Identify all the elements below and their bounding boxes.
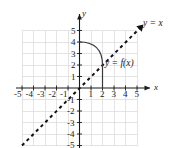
y-tick-label-3: 3 (71, 50, 76, 59)
x-tick-label-neg4: -4 (26, 90, 34, 99)
graph-figure: y x -5 -4 -3 -2 -1 1 2 3 4 5 5 4 3 2 1 -… (0, 0, 173, 148)
x-tick-label-5: 5 (135, 90, 140, 99)
y-tick-label-4: 4 (71, 38, 76, 47)
x-tick-label-neg3: -3 (37, 90, 45, 99)
x-tick-label-4: 4 (123, 90, 128, 99)
y-tick-label-2: 2 (71, 61, 76, 70)
x-tick-label-neg2: -2 (49, 90, 57, 99)
y-tick-label-5: 5 (71, 27, 76, 36)
x-tick-label-1: 1 (89, 90, 94, 99)
function-curve-label: y = f(x) (105, 59, 134, 69)
x-axis-label: x (154, 83, 158, 92)
x-tick-label-neg5: -5 (14, 90, 22, 99)
y-axis (77, 14, 82, 148)
y-tick-label-neg4: -4 (67, 130, 75, 139)
y-tick-label-neg3: -3 (67, 119, 75, 128)
y-tick-label-neg2: -2 (67, 107, 75, 116)
y-tick-label-neg1: -1 (67, 96, 75, 105)
y-axis-label: y (82, 9, 86, 18)
identity-line-label: y = x (143, 19, 163, 29)
y-tick-label-neg5: -5 (67, 141, 75, 148)
y-tick-label-1: 1 (71, 73, 76, 82)
x-tick-label-2: 2 (100, 90, 105, 99)
x-tick-label-3: 3 (112, 90, 117, 99)
